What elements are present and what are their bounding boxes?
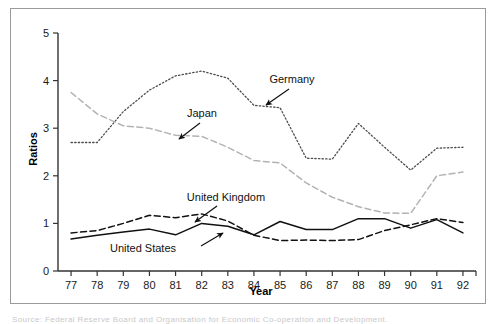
series-lines — [71, 71, 463, 240]
x-tick-label: 81 — [169, 279, 181, 291]
x-tick-label: 90 — [405, 279, 417, 291]
y-axis: 012345 — [43, 27, 58, 277]
x-tick-label: 83 — [222, 279, 234, 291]
annotation-label-united-states: United States — [110, 242, 177, 254]
chart-frame: 012345 77787980818283848586878889909192 … — [10, 8, 486, 304]
figure-container: 012345 77787980818283848586878889909192 … — [0, 0, 498, 324]
x-tick-label: 85 — [274, 279, 286, 291]
y-tick-label: 3 — [43, 122, 49, 134]
x-tick-label: 87 — [326, 279, 338, 291]
annotation-arrow-united-states — [201, 233, 223, 246]
x-tick-label: 86 — [300, 279, 312, 291]
x-tick-label: 82 — [196, 279, 208, 291]
annotation-arrow-germany — [266, 89, 289, 105]
x-tick-label: 77 — [65, 279, 77, 291]
y-tick-label: 5 — [43, 27, 49, 39]
series-line-united-kingdom — [71, 214, 463, 241]
figure-caption-sliver: Source: Federal Reserve Board and Organi… — [12, 316, 486, 324]
y-tick-label: 4 — [43, 75, 49, 87]
annotation-label-united-kingdom: United Kingdom — [187, 191, 265, 203]
x-tick-label: 89 — [378, 279, 390, 291]
series-line-japan — [71, 93, 463, 214]
y-tick-label: 2 — [43, 170, 49, 182]
x-tick-label: 91 — [431, 279, 443, 291]
x-tick-label: 88 — [352, 279, 364, 291]
x-tick-label: 92 — [457, 279, 469, 291]
y-axis-title: Ratios — [27, 132, 39, 166]
x-tick-label: 78 — [91, 279, 103, 291]
series-annotations: GermanyJapanUnited KingdomUnited States — [110, 73, 315, 254]
annotation-label-germany: Germany — [269, 73, 315, 85]
x-tick-label: 79 — [117, 279, 129, 291]
y-tick-label: 1 — [43, 217, 49, 229]
x-tick-label: 80 — [143, 279, 155, 291]
y-tick-label: 0 — [43, 265, 49, 277]
series-line-germany — [71, 71, 463, 170]
annotation-label-japan: Japan — [187, 107, 217, 119]
line-chart: 012345 77787980818283848586878889909192 … — [11, 9, 485, 303]
x-axis-title: Year — [249, 285, 273, 297]
